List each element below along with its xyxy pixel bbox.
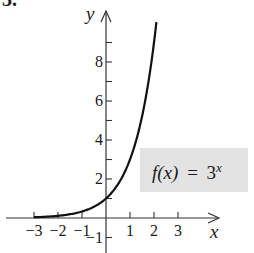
y-tick-label: 8 [95, 53, 103, 70]
x-tick-label: 2 [150, 222, 158, 239]
problem-number: 3. [2, 0, 17, 10]
function-label: f(x) = 3x [152, 160, 222, 184]
y-tick-label: 2 [95, 170, 103, 187]
function-curve [34, 22, 156, 217]
x-tick-label: −3 [25, 222, 42, 239]
x-tick-label: 3 [174, 222, 182, 239]
y-tick-label: 4 [95, 131, 103, 148]
y-axis-label: y [84, 3, 95, 24]
exponential-chart: 3. f(x) = 3x −3−2−1123−12468 x y [0, 0, 254, 253]
y-tick-label: −1 [86, 229, 103, 246]
x-tick-label: 1 [126, 222, 134, 239]
x-axis-label: x [209, 221, 219, 242]
y-tick-label: 6 [95, 92, 103, 109]
x-tick-label: −2 [49, 222, 66, 239]
